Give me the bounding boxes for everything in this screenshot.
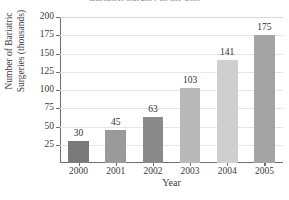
bar-value-label: 63	[133, 104, 174, 114]
plot-area: 200175150125100755025 302000452001632002…	[60, 17, 283, 163]
y-axis-tick-mark	[56, 72, 60, 73]
gridline	[60, 90, 283, 91]
x-axis-tick-mark	[79, 163, 80, 166]
y-axis-tick-label: 25	[30, 140, 54, 150]
bar[interactable]	[105, 130, 126, 163]
y-axis-tick-mark	[56, 17, 60, 18]
bar-value-label: 141	[207, 47, 248, 57]
bar-slot: 632002	[143, 17, 164, 163]
y-axis-tick-label: 175	[30, 30, 54, 40]
y-axis-tick-mark	[56, 90, 60, 91]
y-axis-title: Number of Bariatric Surgeries (thousands…	[3, 0, 29, 111]
x-axis-tick-mark	[153, 163, 154, 166]
bar-slot: 1032003	[180, 17, 201, 163]
bar-value-label: 103	[170, 75, 211, 85]
bar-slot: 302000	[68, 17, 89, 163]
bar-slot: 1412004	[217, 17, 238, 163]
bar[interactable]	[254, 35, 275, 163]
bar[interactable]	[217, 60, 238, 163]
gridline	[60, 35, 283, 36]
bar[interactable]	[180, 88, 201, 163]
x-axis-tick-mark	[116, 163, 117, 166]
chart-title: Bariatric Surgery in the U.S.	[0, 0, 289, 1]
gridline	[60, 17, 283, 18]
bar[interactable]	[143, 117, 164, 163]
x-axis-tick-mark	[227, 163, 228, 166]
gridline	[60, 72, 283, 73]
bar-chart: Bariatric Surgery in the U.S. Number of …	[0, 0, 289, 200]
y-axis-tick-label: 75	[30, 103, 54, 113]
y-axis-tick-mark	[56, 145, 60, 146]
y-axis-tick-label: 50	[30, 122, 54, 132]
gridline	[60, 145, 283, 146]
y-axis-tick-label: 200	[30, 12, 54, 22]
x-axis-tick-mark	[190, 163, 191, 166]
bar-value-label: 175	[244, 22, 285, 32]
bar[interactable]	[68, 141, 89, 163]
bar-value-label: 30	[58, 128, 99, 138]
bar-slot: 1752005	[254, 17, 275, 163]
x-axis-title: Year	[60, 177, 283, 188]
gridline	[60, 54, 283, 55]
y-axis-tick-label: 100	[30, 85, 54, 95]
x-axis-tick-mark	[264, 163, 265, 166]
y-axis-tick-mark	[56, 35, 60, 36]
y-axis-tick-label: 125	[30, 67, 54, 77]
y-axis-title-line-1: Number of Bariatric	[3, 0, 15, 111]
bar-slot: 452001	[105, 17, 126, 163]
x-axis-tick-label: 2005	[242, 166, 287, 176]
y-axis-tick-mark	[56, 108, 60, 109]
y-axis-tick-mark	[56, 54, 60, 55]
y-axis-title-line-2: Surgeries (thousands)	[15, 0, 27, 111]
y-axis-tick-label: 150	[30, 49, 54, 59]
bar-value-label: 45	[95, 117, 136, 127]
